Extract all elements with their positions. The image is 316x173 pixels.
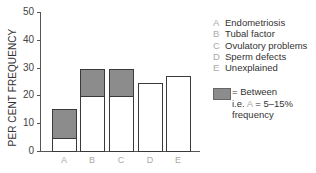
x-tick-label: D — [138, 155, 162, 165]
bar-range-shade — [81, 70, 104, 97]
legend-item: COvulatory problems — [213, 40, 307, 51]
legend-item: DSperm defects — [213, 51, 307, 62]
x-tick-label: E — [166, 155, 190, 165]
y-tick — [37, 95, 40, 96]
bar-d — [138, 83, 163, 152]
legend-item: BTubal factor — [213, 28, 307, 39]
y-tick-label: 50 — [18, 7, 34, 17]
legend-item: AEndometriosis — [213, 17, 307, 28]
y-axis-label: PER CENT FREQUENCY — [7, 28, 18, 148]
bar-e — [166, 76, 191, 152]
y-tick-label: 40 — [18, 35, 34, 45]
y-tick-label: 30 — [18, 63, 34, 73]
x-tick-label: C — [109, 155, 133, 165]
y-tick-label: 20 — [18, 90, 34, 100]
x-tick-label: A — [52, 155, 76, 165]
y-tick-label: 0 — [18, 146, 34, 156]
range-note: = Between i.e. A = 5–15% frequency — [232, 86, 293, 121]
y-tick — [37, 12, 40, 13]
y-tick — [37, 151, 40, 152]
bar-c — [109, 69, 134, 152]
bar-b — [80, 69, 105, 152]
y-tick — [37, 68, 40, 69]
y-tick-label: 10 — [18, 118, 34, 128]
legend: AEndometriosis BTubal factor COvulatory … — [213, 17, 307, 73]
legend-item: EUnexplained — [213, 62, 307, 73]
x-tick-label: B — [80, 155, 104, 165]
bar-range-shade — [53, 110, 76, 139]
y-tick — [37, 40, 40, 41]
y-tick — [37, 123, 40, 124]
range-swatch-icon — [213, 88, 231, 100]
bar-range-shade — [110, 70, 133, 97]
y-axis — [40, 12, 41, 152]
bar-a — [52, 109, 77, 152]
